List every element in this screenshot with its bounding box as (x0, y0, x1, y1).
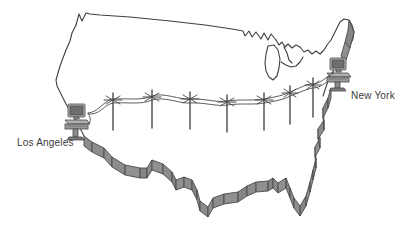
lake-huron-inner-path (284, 47, 292, 63)
ribbon-seg-25 (286, 178, 290, 198)
ribbon-seg-8 (152, 160, 163, 174)
ribbon-seg-17 (213, 194, 224, 208)
ribbon-seg-1 (84, 136, 92, 152)
telephone-pole-icon-3 (181, 92, 199, 129)
diagram-canvas: Los Angeles New York (0, 0, 411, 240)
ribbon-seg-florida-2 (294, 198, 300, 216)
ribbon-seg-22 (268, 178, 273, 191)
ribbon-seg-12 (184, 177, 192, 190)
ribbon-seg-9 (163, 164, 172, 182)
ribbon-seg-florida-4 (306, 182, 310, 206)
ribbon-seg-19 (238, 186, 247, 202)
ribbon-seg-7 (147, 160, 152, 178)
ribbon-seg-18 (224, 192, 238, 204)
telephone-pole-icon-2 (143, 90, 161, 128)
extruded-border-ribbon (84, 20, 354, 217)
northern-border-path (76, 13, 276, 40)
telephone-pole-icon-7 (305, 78, 321, 117)
telephone-pole-icon-6 (282, 86, 298, 124)
ribbon-seg-21 (256, 181, 268, 192)
ribbon-seg-15 (200, 201, 208, 217)
ribbon-seg-3 (104, 148, 112, 167)
wire-lower (88, 76, 334, 114)
ribbon-seg-2 (92, 142, 104, 158)
telephone-pole-icon-5 (255, 93, 273, 130)
great-lakes-erie-ontario-path (281, 57, 303, 67)
great-lakes-upper-path (276, 40, 300, 48)
ribbon-seg-16 (208, 198, 213, 217)
desktop-computer-icon-new-york (327, 58, 351, 91)
ribbon-seg-4 (112, 157, 125, 175)
ribbon-seg-23 (273, 178, 278, 193)
us-map-network-illustration (0, 0, 411, 240)
us-map-outline (56, 13, 354, 136)
ribbon-seg-20 (247, 182, 256, 196)
ribbon-seg-13 (192, 180, 197, 200)
ribbon-seg-10 (172, 172, 176, 190)
ribbon-seg-11 (176, 177, 184, 190)
city-label-new-york: New York (351, 91, 395, 101)
city-label-los-angeles: Los Angeles (17, 138, 74, 148)
desktop-computer-icon-los-angeles (65, 104, 90, 140)
west-coast-path (56, 25, 84, 136)
ribbon-seg-east-7 (323, 98, 328, 118)
ribbon-seg-florida-1 (290, 188, 294, 208)
ribbon-seg-24 (278, 178, 286, 193)
ribbon-seg-6 (140, 168, 147, 178)
ribbon-seg-5 (125, 165, 140, 178)
great-lakes-michigan-path (265, 45, 280, 80)
ribbon-seg-florida-3 (300, 196, 306, 216)
